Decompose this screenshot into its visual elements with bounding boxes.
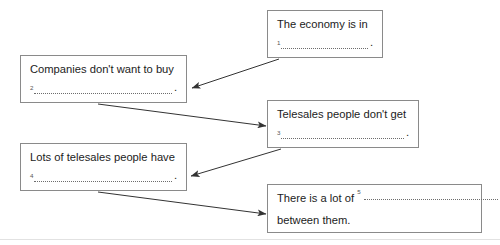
worksheet-page: The economy is in 1 . Companies don't wa… <box>0 0 500 245</box>
arrow-4 <box>98 192 266 214</box>
statement-text-5-line2: between them. <box>277 214 472 227</box>
gap-number-2: 2 <box>30 85 33 91</box>
gap-row-2[interactable]: 2 . <box>30 81 177 94</box>
gap-number-3: 3 <box>277 130 280 136</box>
gap-blank-5[interactable] <box>364 192 498 200</box>
gap-end-mark-2: . <box>174 81 177 94</box>
statement-box-2[interactable]: Companies don't want to buy 2 . <box>20 55 187 103</box>
gap-number-1: 1 <box>277 40 280 46</box>
arrow-2 <box>98 104 266 126</box>
gap-number-5: 5 <box>357 188 360 195</box>
gap-row-4[interactable]: 4 . <box>30 169 177 182</box>
gap-blank-1[interactable] <box>281 41 368 49</box>
gap-number-4: 4 <box>30 173 33 179</box>
gap-row-5[interactable]: There is a lot of 5 <box>277 192 472 205</box>
gap-end-mark-3: . <box>406 126 409 139</box>
statement-text-5: There is a lot of <box>277 192 354 204</box>
gap-end-mark-1: . <box>370 36 373 49</box>
gap-row-3[interactable]: 3 . <box>277 126 409 139</box>
gap-blank-4[interactable] <box>34 174 172 182</box>
gap-row-1[interactable]: 1 . <box>277 36 373 49</box>
footer-divider <box>0 239 500 240</box>
arrow-3 <box>191 149 281 176</box>
statement-box-5[interactable]: There is a lot of 5 between them. <box>267 184 482 233</box>
statement-text-1: The economy is in <box>277 18 373 31</box>
gap-end-mark-4: . <box>174 169 177 182</box>
statement-box-1[interactable]: The economy is in 1 . <box>267 10 383 58</box>
arrow-1 <box>192 59 279 88</box>
statement-text-4: Lots of telesales people have <box>30 151 177 164</box>
gap-blank-3[interactable] <box>281 131 404 139</box>
statement-text-3: Telesales people don't get <box>277 108 409 121</box>
gap-blank-2[interactable] <box>34 86 172 94</box>
statement-text-2: Companies don't want to buy <box>30 63 177 76</box>
statement-box-4[interactable]: Lots of telesales people have 4 . <box>20 143 187 191</box>
statement-box-3[interactable]: Telesales people don't get 3 . <box>267 100 419 148</box>
